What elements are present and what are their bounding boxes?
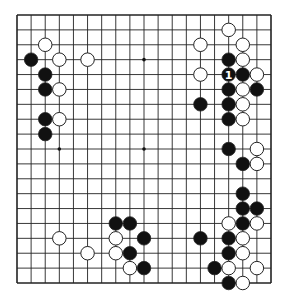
black-stone[interactable] — [222, 83, 236, 97]
black-stone[interactable] — [222, 246, 236, 260]
white-stone[interactable] — [236, 53, 250, 67]
black-stone-icon — [236, 68, 250, 82]
white-stone-icon — [250, 68, 264, 82]
white-stone[interactable] — [236, 83, 250, 97]
white-stone-icon — [38, 38, 52, 52]
black-stone[interactable] — [236, 157, 250, 171]
black-stone-icon — [250, 83, 264, 97]
white-stone-icon — [250, 261, 264, 275]
black-stone[interactable] — [208, 261, 222, 275]
white-stone[interactable] — [236, 112, 250, 126]
white-stone[interactable] — [109, 232, 123, 246]
black-stone-icon — [236, 217, 250, 231]
black-stone-icon — [194, 232, 208, 246]
white-stone[interactable] — [53, 53, 67, 67]
black-stone-icon — [194, 98, 208, 112]
white-stone[interactable] — [236, 232, 250, 246]
black-stone-icon — [222, 232, 236, 246]
black-stone-icon — [250, 202, 264, 216]
black-stone[interactable] — [137, 232, 151, 246]
white-stone-icon — [236, 112, 250, 126]
black-stone[interactable] — [250, 83, 264, 97]
white-stone-icon — [109, 232, 123, 246]
white-stone[interactable] — [250, 217, 264, 231]
white-stone[interactable] — [123, 261, 137, 275]
black-stone[interactable] — [222, 98, 236, 112]
black-stone-icon — [38, 68, 52, 82]
black-stone-icon — [123, 217, 137, 231]
black-stone[interactable] — [222, 142, 236, 156]
white-stone[interactable] — [194, 68, 208, 82]
black-stone[interactable] — [38, 112, 52, 126]
white-stone[interactable] — [250, 157, 264, 171]
black-stone-icon — [208, 261, 222, 275]
black-stone-icon — [222, 83, 236, 97]
black-stone[interactable] — [222, 112, 236, 126]
black-stone[interactable] — [236, 217, 250, 231]
white-stone-icon — [109, 246, 123, 260]
black-stone[interactable] — [236, 68, 250, 82]
black-stone[interactable] — [24, 53, 38, 67]
black-stone[interactable] — [250, 202, 264, 216]
white-stone[interactable] — [81, 53, 95, 67]
white-stone[interactable] — [81, 246, 95, 260]
black-stone-icon — [38, 127, 52, 141]
black-stone[interactable] — [38, 83, 52, 97]
white-stone[interactable] — [236, 276, 250, 290]
go-board[interactable]: 1 — [0, 0, 290, 300]
black-stone-icon — [236, 202, 250, 216]
black-stone-icon — [24, 53, 38, 67]
black-stone-icon — [236, 187, 250, 201]
white-stone[interactable] — [250, 261, 264, 275]
white-stone[interactable] — [194, 38, 208, 52]
white-stone-icon — [222, 23, 236, 37]
white-stone[interactable] — [222, 23, 236, 37]
black-stone[interactable] — [236, 187, 250, 201]
white-stone-icon — [123, 261, 137, 275]
white-stone[interactable] — [236, 246, 250, 260]
black-stone[interactable] — [137, 261, 151, 275]
white-stone-icon — [236, 98, 250, 112]
white-stone-icon — [236, 232, 250, 246]
black-stone[interactable] — [194, 98, 208, 112]
white-stone-icon — [250, 157, 264, 171]
black-stone[interactable] — [109, 217, 123, 231]
white-stone-icon — [236, 246, 250, 260]
black-stone[interactable] — [123, 217, 137, 231]
black-stone[interactable] — [236, 202, 250, 216]
black-stone[interactable] — [222, 276, 236, 290]
white-stone[interactable] — [250, 68, 264, 82]
black-stone[interactable] — [222, 53, 236, 67]
white-stone[interactable] — [38, 38, 52, 52]
black-stone[interactable] — [123, 246, 137, 260]
white-stone[interactable] — [53, 83, 67, 97]
white-stone-icon — [81, 246, 95, 260]
white-stone[interactable] — [109, 246, 123, 260]
white-stone-icon — [194, 38, 208, 52]
white-stone[interactable] — [53, 232, 67, 246]
black-stone-numbered[interactable]: 1 — [222, 68, 236, 82]
black-stone-icon — [109, 217, 123, 231]
black-stone-icon — [137, 261, 151, 275]
white-stone[interactable] — [250, 142, 264, 156]
white-stone-icon — [236, 38, 250, 52]
white-stone[interactable] — [236, 38, 250, 52]
white-stone-icon — [53, 53, 67, 67]
black-stone[interactable] — [38, 127, 52, 141]
black-stone-icon — [222, 246, 236, 260]
white-stone[interactable] — [53, 112, 67, 126]
black-stone[interactable] — [222, 232, 236, 246]
white-stone-icon — [250, 217, 264, 231]
white-stone-icon — [194, 68, 208, 82]
black-stone[interactable] — [38, 68, 52, 82]
star-point — [142, 58, 146, 62]
black-stone-icon — [222, 142, 236, 156]
white-stone-icon — [53, 112, 67, 126]
white-stone[interactable] — [236, 98, 250, 112]
black-stone[interactable] — [194, 232, 208, 246]
black-stone-icon — [222, 112, 236, 126]
white-stone-icon — [81, 53, 95, 67]
white-stone[interactable] — [222, 261, 236, 275]
white-stone[interactable] — [222, 217, 236, 231]
white-stone-icon — [222, 217, 236, 231]
